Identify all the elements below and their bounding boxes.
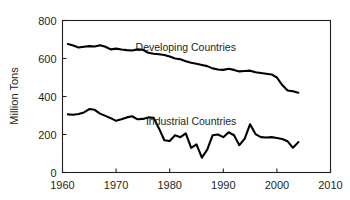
line-chart: 0200400600800 196019701980199020002010 M… [0,0,350,200]
y-axis-title: Million Tons [8,67,20,125]
x-tick-label: 2010 [318,179,342,191]
x-tick-label: 2000 [265,179,289,191]
series-annotation-1: Industrial Countries [146,115,236,127]
data-series-group [68,44,298,158]
x-tick-label: 1970 [104,179,128,191]
x-tick-label: 1960 [50,179,74,191]
x-axis-tick-labels: 196019701980199020002010 [50,179,342,191]
x-tick-label: 1990 [211,179,235,191]
y-tick-label: 0 [50,167,56,179]
chart-container: 0200400600800 196019701980199020002010 M… [0,0,350,200]
y-tick-label: 800 [38,15,56,27]
y-tick-label: 400 [38,91,56,103]
y-tick-label: 200 [38,129,56,141]
series-annotation-0: Developing Countries [136,41,236,53]
y-axis-ticks [63,21,67,173]
y-tick-label: 600 [38,53,56,65]
x-tick-label: 1980 [157,179,181,191]
y-axis-tick-labels: 0200400600800 [38,15,56,179]
x-axis-ticks [63,169,331,173]
